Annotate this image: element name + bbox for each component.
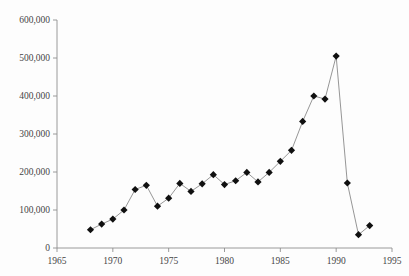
x-tick-label: 1965: [48, 256, 67, 266]
data-point-marker: [87, 226, 94, 233]
data-point-marker: [143, 182, 150, 189]
line-chart-plot: 0100,000200,000300,000400,000500,000600,…: [0, 0, 409, 276]
y-tick-label: 100,000: [19, 205, 50, 215]
data-point-marker: [132, 186, 139, 193]
data-point-marker: [344, 179, 351, 186]
data-point-marker: [299, 118, 306, 125]
data-point-marker: [321, 95, 328, 102]
y-tick-label: 500,000: [19, 53, 50, 63]
data-point-marker: [154, 203, 161, 210]
y-tick-label: 400,000: [19, 91, 50, 101]
chart-container: 0100,000200,000300,000400,000500,000600,…: [0, 0, 409, 276]
x-tick-label: 1980: [215, 256, 234, 266]
data-point-marker: [232, 177, 239, 184]
x-tick-label: 1995: [383, 256, 402, 266]
y-tick-label: 300,000: [19, 129, 50, 139]
data-point-marker: [187, 188, 194, 195]
data-series: [91, 56, 370, 235]
x-tick-label: 1990: [327, 256, 346, 266]
data-point-marker: [333, 53, 340, 60]
x-tick-label: 1975: [159, 256, 178, 266]
x-tick-label: 1985: [271, 256, 290, 266]
x-tick-label: 1970: [103, 256, 122, 266]
data-point-marker: [310, 92, 317, 99]
series-line: [91, 56, 370, 235]
data-point-marker: [98, 220, 105, 227]
y-tick-label: 200,000: [19, 167, 50, 177]
y-tick-label: 0: [45, 243, 50, 253]
y-tick-label: 600,000: [19, 15, 50, 25]
data-point-marker: [176, 180, 183, 187]
data-point-marker: [165, 195, 172, 202]
x-axis: 1965197019751980198519901995: [48, 248, 402, 266]
y-axis: 0100,000200,000300,000400,000500,000600,…: [19, 15, 57, 253]
